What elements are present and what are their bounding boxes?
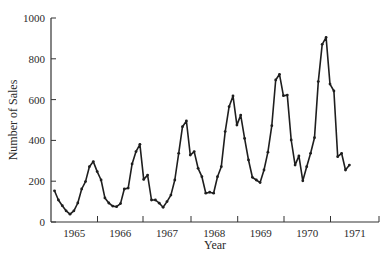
data-point — [313, 136, 316, 139]
data-point — [232, 95, 235, 98]
data-point — [107, 202, 110, 205]
data-point — [139, 143, 142, 146]
x-tick-label: 1966 — [109, 227, 132, 239]
data-point — [336, 155, 339, 158]
data-point — [150, 199, 153, 202]
data-point — [247, 159, 250, 162]
data-point — [80, 188, 83, 191]
data-point — [185, 120, 188, 123]
data-point — [193, 150, 196, 153]
x-axis-ticks: 1965196619671968196919701971 — [63, 216, 379, 239]
data-point — [65, 209, 68, 212]
y-tick-label: 600 — [29, 94, 46, 106]
data-point — [53, 189, 56, 192]
data-point — [88, 165, 91, 168]
data-point — [170, 194, 173, 197]
data-point — [61, 204, 64, 207]
data-point — [298, 155, 301, 158]
data-point — [239, 114, 242, 117]
data-point — [197, 167, 200, 170]
data-point — [259, 181, 262, 184]
data-point — [201, 175, 204, 178]
x-tick-label: 1969 — [250, 227, 273, 239]
data-point — [340, 152, 343, 155]
data-point — [135, 150, 138, 153]
data-point — [282, 94, 285, 97]
data-point — [212, 192, 215, 195]
sales-line-chart: 02004006008001000 1965196619671968196919… — [0, 0, 388, 264]
data-point — [220, 165, 223, 168]
y-tick-label: 1000 — [23, 12, 46, 24]
y-tick-label: 800 — [29, 53, 46, 65]
data-point — [69, 213, 72, 216]
data-point — [127, 187, 130, 190]
data-point — [158, 202, 161, 205]
data-point — [329, 83, 332, 86]
data-point — [57, 199, 60, 202]
y-axis-title: Number of Sales — [6, 79, 20, 160]
data-point — [146, 174, 149, 177]
data-point — [321, 43, 324, 46]
data-point — [76, 202, 79, 205]
data-point — [142, 178, 145, 181]
x-axis-title: Year — [204, 238, 226, 252]
data-point — [177, 152, 180, 155]
data-point — [216, 175, 219, 178]
data-point — [251, 176, 254, 179]
data-point — [181, 125, 184, 128]
data-point — [84, 180, 87, 183]
data-point — [119, 202, 122, 205]
data-point — [301, 179, 304, 182]
data-point — [92, 160, 95, 163]
axes — [51, 18, 379, 222]
data-point — [111, 205, 114, 208]
data-point — [348, 164, 351, 167]
data-point — [317, 80, 320, 83]
data-point — [204, 192, 207, 195]
x-tick-label: 1967 — [156, 227, 179, 239]
data-point — [274, 79, 277, 82]
data-point — [290, 139, 293, 142]
data-point — [344, 169, 347, 172]
data-point — [224, 130, 227, 133]
data-point — [255, 179, 258, 182]
data-point — [100, 179, 103, 182]
data-point — [236, 124, 239, 127]
data-point — [123, 188, 126, 191]
data-point — [162, 206, 165, 209]
data-point — [270, 124, 273, 127]
data-point — [243, 137, 246, 140]
data-point — [286, 94, 289, 97]
y-tick-label: 400 — [29, 134, 46, 146]
data-point — [263, 169, 266, 172]
sales-series-line — [55, 37, 350, 214]
data-point — [333, 90, 336, 93]
data-point — [96, 170, 99, 173]
data-point — [325, 36, 328, 39]
data-point — [189, 154, 192, 157]
data-point — [267, 151, 270, 154]
data-point — [73, 209, 76, 212]
y-tick-label: 200 — [29, 175, 46, 187]
x-tick-label: 1970 — [296, 227, 319, 239]
data-point — [309, 152, 312, 155]
x-tick-label: 1965 — [63, 227, 86, 239]
sales-series-markers — [53, 36, 351, 216]
data-point — [131, 163, 134, 166]
x-tick-label: 1971 — [344, 227, 366, 239]
data-point — [294, 164, 297, 167]
data-point — [278, 73, 281, 76]
data-point — [208, 191, 211, 194]
data-point — [104, 197, 107, 200]
data-point — [305, 165, 308, 168]
data-point — [173, 179, 176, 182]
data-point — [154, 199, 157, 202]
data-point — [115, 205, 118, 208]
y-tick-label: 0 — [40, 216, 46, 228]
data-point — [228, 105, 231, 108]
data-point — [166, 200, 169, 203]
